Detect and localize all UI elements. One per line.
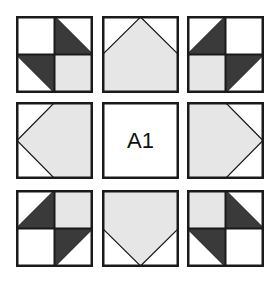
tile-bottom-center <box>102 190 179 267</box>
pinwheel-quadrant-icon <box>187 16 264 93</box>
tile-top-left <box>16 16 93 93</box>
arrow-up-pentagon-icon <box>102 16 179 93</box>
arrow-left-pentagon-icon <box>16 102 93 179</box>
pinwheel-quadrant-icon <box>16 16 93 93</box>
tile-middle-left <box>16 102 93 179</box>
tile-center: A1 <box>102 102 179 179</box>
tile-top-right <box>187 16 264 93</box>
arrow-right-pentagon-icon <box>187 102 264 179</box>
center-label: A1 <box>102 102 179 179</box>
tile-bottom-right <box>187 190 264 267</box>
tile-middle-right <box>187 102 264 179</box>
pinwheel-quadrant-icon <box>187 190 264 267</box>
pinwheel-quadrant-icon <box>16 190 93 267</box>
tile-bottom-left <box>16 190 93 267</box>
tile-top-center <box>102 16 179 93</box>
arrow-down-pentagon-icon <box>102 190 179 267</box>
